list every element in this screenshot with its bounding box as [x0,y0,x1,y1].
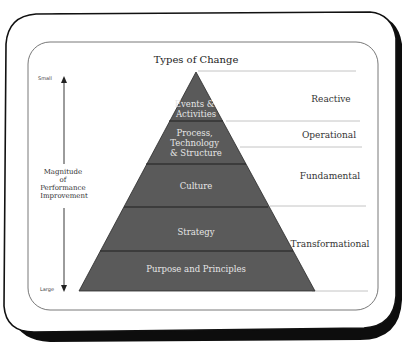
layer-strategy: Strategy [177,227,214,237]
axis-title: Magnitude of Performance Improvement [40,168,88,200]
change-reactive: Reactive [311,94,350,104]
layer-process-technology-structure: Process, Technology & Structure [170,128,222,158]
layer-events-activities: Events & Activities [175,99,217,119]
types-of-change-diagram: Types of Change Small Large Magnitude of… [0,0,406,348]
layer-culture: Culture [180,181,213,191]
change-operational: Operational [302,130,356,140]
diagram-title: Types of Change [154,54,239,65]
axis-large-label: Large [40,286,54,293]
change-fundamental: Fundamental [300,171,361,181]
change-transformational: Transformational [291,239,370,249]
axis-small-label: Small [38,75,52,81]
layer-purpose-principles: Purpose and Principles [146,264,246,274]
